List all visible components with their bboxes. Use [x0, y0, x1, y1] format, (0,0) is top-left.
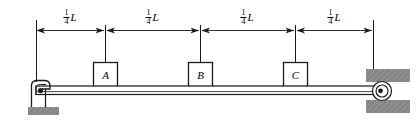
dimension-label-4: 1 4 L: [327, 9, 340, 27]
beam: [36, 86, 380, 95]
left-support-ground: [28, 107, 59, 115]
fraction-one-quarter: 1 4: [240, 9, 246, 27]
fraction-one-quarter: 1 4: [145, 9, 151, 27]
left-support-pin: [38, 88, 43, 93]
right-support-upper-block: [366, 69, 410, 82]
dimension-symbol-2: L: [152, 12, 158, 23]
block-b-label: B: [197, 70, 204, 81]
dimension-label-3: 1 4 L: [240, 9, 253, 27]
right-support-lower-block: [366, 100, 410, 113]
beam-body: [36, 86, 380, 95]
fraction-one-quarter: 1 4: [63, 9, 69, 27]
dimension-label-2: 1 4 L: [145, 9, 158, 27]
block-a-label: A: [102, 70, 109, 81]
dimension-label-1: 1 4 L: [63, 9, 76, 27]
diagram-canvas: [0, 0, 416, 124]
dimension-symbol-1: L: [70, 12, 76, 23]
dimension-symbol-3: L: [247, 12, 253, 23]
right-support-pin: [378, 88, 383, 93]
fraction-one-quarter: 1 4: [327, 9, 333, 27]
dimension-symbol-4: L: [334, 12, 340, 23]
beam-diagram: 1 4 L 1 4 L 1 4 L 1 4 L A B C: [0, 0, 416, 124]
right-support: [366, 69, 410, 113]
block-c-label: C: [292, 70, 299, 81]
